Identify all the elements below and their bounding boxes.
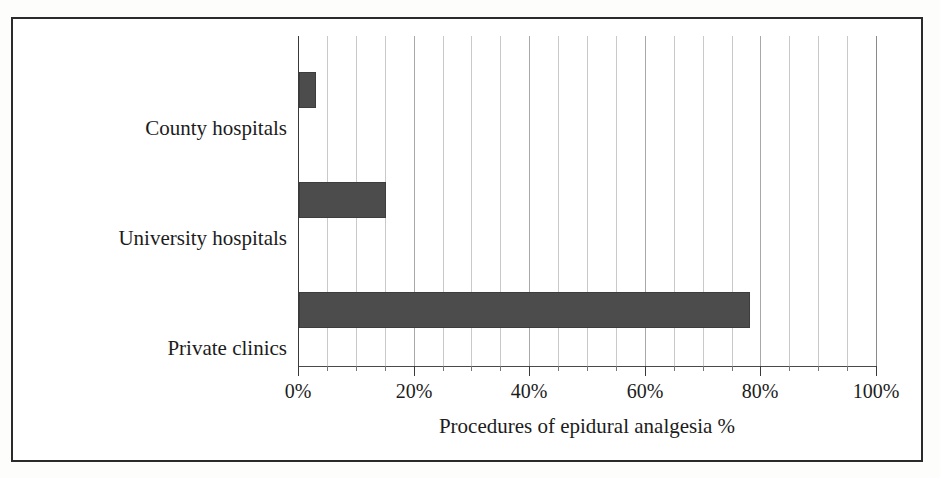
x-tick-60 (645, 366, 646, 376)
x-axis-title: Procedures of epidural analgesia % (298, 414, 876, 439)
x-tick-55 (616, 366, 617, 371)
x-tick-65 (674, 366, 675, 371)
x-tick-10 (356, 366, 357, 371)
x-tick-5 (327, 366, 328, 371)
bar-county-hospitals (299, 72, 316, 108)
y-axis-title: Obstetrics-gynaecology clinics (18, 0, 52, 69)
x-tick-85 (789, 366, 790, 371)
bar-university-hospitals (299, 182, 386, 218)
x-tick-50 (587, 366, 588, 371)
x-tick-label-20%: 20% (369, 380, 459, 403)
x-tick-75 (732, 366, 733, 371)
x-tick-95 (847, 366, 848, 371)
x-tick-80 (760, 366, 761, 376)
x-tick-35 (500, 366, 501, 371)
x-tick-label-60%: 60% (600, 380, 690, 403)
figure-root: Obstetrics-gynaecology clinics County ho… (0, 0, 940, 478)
x-tick-45 (558, 366, 559, 371)
category-label-private-clinics: Private clinics (47, 338, 287, 359)
x-tick-90 (818, 366, 819, 371)
x-tick-0 (298, 366, 299, 376)
x-tick-15 (385, 366, 386, 371)
x-tick-label-0%: 0% (253, 380, 343, 403)
category-label-university-hospitals: University hospitals (47, 228, 287, 249)
x-tick-70 (703, 366, 704, 371)
x-tick-25 (443, 366, 444, 371)
x-tick-40 (529, 366, 530, 376)
bar-series (298, 36, 876, 366)
category-label-county-hospitals: County hospitals (47, 118, 287, 139)
category-axis-labels: County hospitals University hospitals Pr… (55, 36, 295, 366)
x-tick-label-40%: 40% (484, 380, 574, 403)
x-tick-label-100%: 100% (831, 380, 921, 403)
x-tick-30 (471, 366, 472, 371)
x-tick-100 (876, 366, 877, 376)
bar-private-clinics (299, 292, 750, 328)
x-tick-20 (414, 366, 415, 376)
plot-area (298, 36, 876, 366)
x-tick-label-80%: 80% (715, 380, 805, 403)
